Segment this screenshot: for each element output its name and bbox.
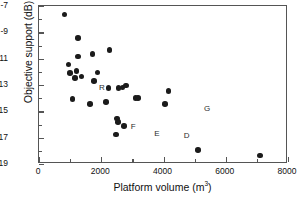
data-point <box>90 51 96 57</box>
point-label-d: D <box>184 132 190 140</box>
data-point <box>87 101 93 107</box>
x-tick-major <box>288 157 289 162</box>
data-point <box>70 96 76 102</box>
point-label-r: R <box>99 84 105 92</box>
data-point <box>135 95 141 101</box>
data-point <box>91 78 97 84</box>
x-axis-title-base: Platform volume (m <box>113 181 204 193</box>
y-tick-major <box>39 32 44 33</box>
y-tick-minor <box>39 151 42 152</box>
y-tick-major <box>39 164 44 165</box>
data-point <box>113 132 119 138</box>
y-tick-major <box>39 111 44 112</box>
data-point <box>115 119 121 125</box>
data-point <box>95 70 101 76</box>
x-tick-label: 4000 <box>143 167 183 176</box>
data-point <box>75 54 81 60</box>
x-axis-title-tail: ) <box>208 181 212 193</box>
x-tick-major <box>226 157 227 162</box>
data-point <box>62 12 68 18</box>
scatter-plot-figure: Objective support (dB) Platform volume (… <box>0 0 299 200</box>
data-point <box>107 47 113 53</box>
point-label-e: E <box>154 130 159 138</box>
x-tick-label: 6000 <box>205 167 245 176</box>
y-tick-minor <box>39 125 42 126</box>
x-tick-minor <box>70 159 71 162</box>
y-tick-label: -7 <box>0 1 8 10</box>
y-tick-minor <box>39 72 42 73</box>
x-tick-minor <box>195 159 196 162</box>
point-label-f: F <box>131 123 136 131</box>
y-tick-label: -15 <box>0 106 8 115</box>
data-point <box>74 68 80 74</box>
x-tick-label: 0 <box>18 167 58 176</box>
x-tick-label: 8000 <box>267 167 299 176</box>
data-point <box>75 35 81 41</box>
data-point <box>166 88 172 94</box>
y-tick-label: -9 <box>0 27 8 36</box>
data-point <box>121 123 127 129</box>
data-point <box>195 147 201 153</box>
x-tick-major <box>164 157 165 162</box>
y-tick-minor <box>39 46 42 47</box>
x-axis-title: Platform volume (m3) <box>38 180 287 193</box>
x-tick-label: 2000 <box>80 167 120 176</box>
data-point <box>72 75 78 81</box>
data-point <box>120 85 126 91</box>
y-tick-minor <box>39 19 42 20</box>
y-tick-label: -13 <box>0 80 8 89</box>
y-tick-major <box>39 138 44 139</box>
data-point <box>106 85 112 91</box>
y-tick-label: -19 <box>0 159 8 168</box>
y-tick-minor <box>39 98 42 99</box>
point-label-g: G <box>204 105 210 113</box>
y-tick-major <box>39 59 44 60</box>
data-point <box>66 62 72 68</box>
plot-area: RFEDG <box>38 5 287 163</box>
y-axis-title: Objective support (dB) <box>22 0 34 132</box>
x-tick-minor <box>257 159 258 162</box>
data-point <box>103 99 109 105</box>
x-tick-major <box>101 157 102 162</box>
y-tick-label: -11 <box>0 54 8 63</box>
y-tick-major <box>39 6 44 7</box>
x-tick-major <box>39 157 40 162</box>
data-point <box>257 153 263 159</box>
y-tick-label: -17 <box>0 133 8 142</box>
y-tick-major <box>39 85 44 86</box>
data-point <box>79 74 85 80</box>
data-point <box>162 101 168 107</box>
x-tick-minor <box>132 159 133 162</box>
